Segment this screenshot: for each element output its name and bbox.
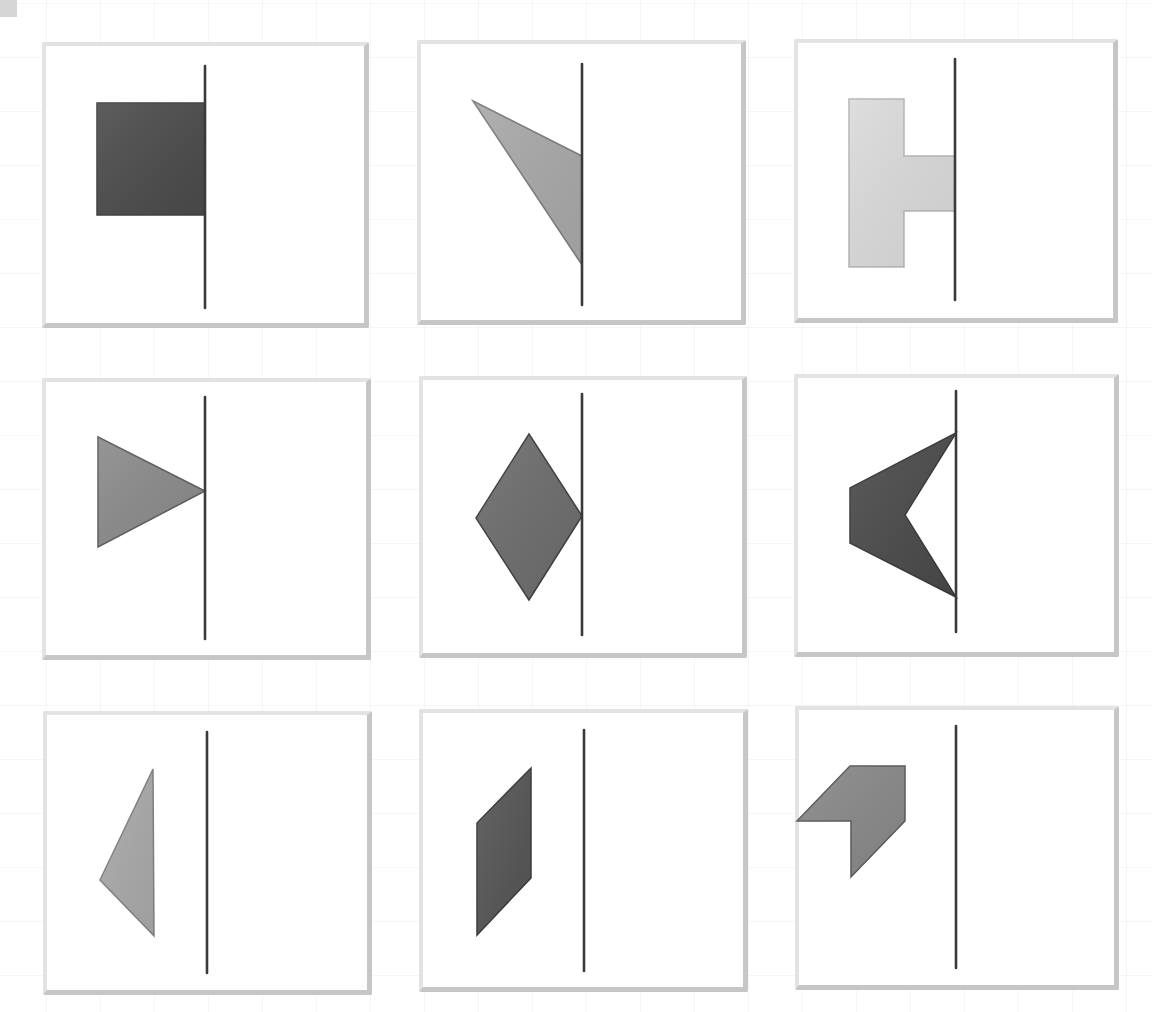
puzzle-panel-r3c1[interactable]: [43, 711, 372, 995]
corner-marker: [0, 0, 17, 17]
puzzle-panel-r2c3[interactable]: [794, 374, 1119, 657]
puzzle-panel-r1c3[interactable]: [794, 39, 1118, 323]
puzzle-panel-r2c2[interactable]: [419, 376, 747, 658]
puzzle-panel-r2c1[interactable]: [42, 378, 371, 660]
puzzle-panel-r1c2[interactable]: [417, 40, 746, 325]
puzzle-panel-r3c3[interactable]: [795, 706, 1119, 990]
puzzle-panel-r1c1[interactable]: [42, 42, 369, 328]
puzzle-panel-r3c2[interactable]: [419, 709, 748, 992]
